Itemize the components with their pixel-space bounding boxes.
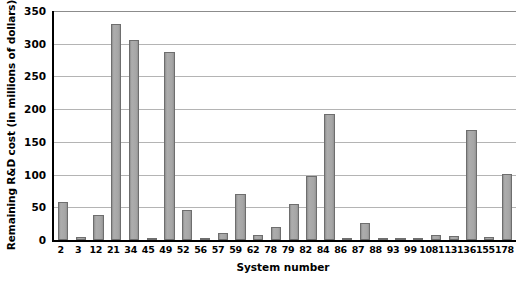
x-axis-tick-label: 87 [349, 243, 366, 259]
x-axis-tick-label: 21 [104, 243, 121, 259]
x-axis-tick-label: 2 [52, 243, 69, 259]
x-axis-tick-label: 99 [402, 243, 419, 259]
bar [218, 233, 228, 240]
y-axis-tick-label: 200 [14, 104, 46, 115]
bar [378, 238, 388, 240]
y-axis-tick-label: 50 [14, 202, 46, 213]
bar-slot [374, 11, 392, 240]
bar-series [54, 11, 516, 240]
y-axis-tick-label: 100 [14, 169, 46, 180]
bar [182, 210, 192, 240]
bar [413, 238, 423, 240]
x-axis-tick-label: 86 [332, 243, 349, 259]
bar-slot [445, 11, 463, 240]
x-axis-tick-label: 49 [157, 243, 174, 259]
y-axis-tick-label: 250 [14, 71, 46, 82]
bar-slot [498, 11, 516, 240]
y-axis-tick-labels: 050100150200250300350 [18, 0, 50, 250]
y-axis-tick-label: 350 [14, 6, 46, 17]
bar [449, 236, 459, 240]
bar [395, 238, 405, 240]
bar [306, 176, 316, 240]
x-axis-tick-label: 155 [476, 243, 495, 259]
x-axis-tick-label: 57 [209, 243, 226, 259]
bar-slot [320, 11, 338, 240]
bar-slot [214, 11, 232, 240]
bar-slot [72, 11, 90, 240]
x-axis-tick-label: 82 [297, 243, 314, 259]
bar [289, 204, 299, 240]
x-axis-tick-label: 79 [279, 243, 296, 259]
x-axis-tick-label: 108 [419, 243, 438, 259]
x-axis-tick-label: 56 [192, 243, 209, 259]
bar [271, 227, 281, 240]
bar [342, 238, 352, 240]
x-axis-tick-label: 3 [69, 243, 86, 259]
bar [200, 238, 210, 240]
bar-slot [125, 11, 143, 240]
bar-slot [161, 11, 179, 240]
x-axis-tick-label: 45 [139, 243, 156, 259]
bar [431, 235, 441, 240]
x-axis-tick-label: 93 [384, 243, 401, 259]
bar [58, 202, 68, 240]
bar-slot [303, 11, 321, 240]
bar-slot [232, 11, 250, 240]
x-axis-tick-label: 78 [262, 243, 279, 259]
bar [93, 215, 103, 240]
bar [324, 114, 334, 240]
bar-slot [249, 11, 267, 240]
y-axis-tick-label: 150 [14, 137, 46, 148]
bar [129, 40, 139, 240]
x-axis-tick-label: 113 [438, 243, 457, 259]
bar-slot [480, 11, 498, 240]
x-axis-tick-label: 59 [227, 243, 244, 259]
bar-chart: Remaining R&D cost (in millions of dolla… [0, 0, 522, 282]
bar-slot [463, 11, 481, 240]
bar [360, 223, 370, 240]
x-axis-tick-label: 52 [174, 243, 191, 259]
x-axis-tick-label: 88 [367, 243, 384, 259]
x-axis-tick-label: 12 [87, 243, 104, 259]
bar [111, 24, 121, 240]
bar-slot [409, 11, 427, 240]
x-axis-tick-label: 84 [314, 243, 331, 259]
y-axis-tick-label: 300 [14, 38, 46, 49]
bar-slot [178, 11, 196, 240]
bar-slot [90, 11, 108, 240]
bar [502, 174, 512, 240]
x-axis-title: System number [52, 261, 514, 273]
bar-slot [338, 11, 356, 240]
x-axis-tick-label: 178 [495, 243, 514, 259]
bar-slot [392, 11, 410, 240]
x-axis-tick-label: 136 [457, 243, 476, 259]
y-axis-tick-label: 0 [14, 235, 46, 246]
bar-slot [196, 11, 214, 240]
x-axis-tick-label: 62 [244, 243, 261, 259]
bar [484, 237, 494, 240]
bar-slot [107, 11, 125, 240]
x-axis-tick-labels: 2312213445495256575962787982848687889399… [52, 243, 514, 259]
bar-slot [143, 11, 161, 240]
bar-slot [427, 11, 445, 240]
bar-slot [267, 11, 285, 240]
bar [147, 238, 157, 240]
bar [466, 130, 476, 240]
bar-slot [356, 11, 374, 240]
bar [235, 194, 245, 240]
bar [164, 52, 174, 240]
x-axis-tick-label: 34 [122, 243, 139, 259]
bar-slot [285, 11, 303, 240]
plot-area [52, 11, 516, 242]
bar [76, 237, 86, 240]
bar-slot [54, 11, 72, 240]
bar [253, 235, 263, 240]
